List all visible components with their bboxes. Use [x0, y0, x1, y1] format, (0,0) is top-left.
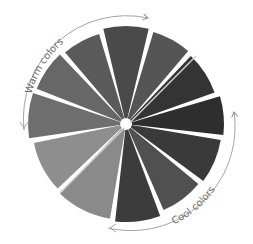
- cool-arrow-start-icon: [110, 224, 116, 232]
- wheel-hub: [122, 120, 130, 128]
- color-wheel-diagram: Warm colors Cool colors: [0, 0, 253, 244]
